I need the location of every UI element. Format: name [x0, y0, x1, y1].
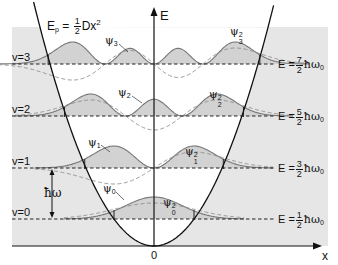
energy-fraction: 72: [296, 56, 303, 75]
formula-fraction: 12: [74, 17, 81, 36]
unit: ħω: [304, 58, 320, 71]
idx: 0: [172, 209, 176, 216]
energy-label-v3: E =72ħω0: [278, 56, 324, 75]
formula-dx: Dx: [82, 19, 97, 33]
psi-squared-label-1: ψ21: [185, 146, 198, 165]
level-label-v3: v=3: [12, 52, 30, 63]
psi-label-3: ψ3: [105, 35, 118, 47]
psi-glyph: ψ: [118, 86, 127, 99]
psi-label-2: ψ2: [118, 87, 131, 99]
e-axis-label: E: [160, 9, 169, 22]
psi-glyph: ψ: [185, 145, 194, 158]
psi-squared-label-0: ψ20: [163, 197, 176, 216]
energy-label-v0: E =12ħω0: [278, 211, 324, 230]
exp: 2: [239, 31, 243, 38]
psi-index: 2: [127, 92, 131, 99]
e-prefix: E =: [278, 213, 295, 225]
exp: 2: [172, 202, 176, 209]
idx: 1: [194, 158, 198, 165]
psi-glyph: ψ: [88, 136, 97, 149]
formula-e: E: [47, 19, 55, 33]
e-prefix: E =: [278, 162, 295, 174]
psi-glyph: ψ: [105, 34, 114, 47]
den: 2: [297, 221, 302, 230]
unit-sub: 0: [320, 116, 324, 123]
unit: ħω: [304, 213, 320, 226]
formula-equals: =: [62, 19, 69, 33]
exp: 2: [194, 151, 198, 158]
sup-sub-stack: 23: [239, 31, 243, 45]
unit: ħω: [304, 162, 320, 175]
origin-label: 0: [151, 250, 157, 261]
den: 2: [297, 170, 302, 179]
psi-glyph: ψ: [103, 182, 112, 195]
hw-text: ħω: [44, 186, 62, 200]
psi-label-0: ψ0: [103, 183, 116, 195]
exp: 2: [218, 94, 222, 101]
formula-exp: 2: [96, 18, 100, 27]
energy-label-v1: E =32ħω0: [278, 160, 324, 179]
psi-squared-label-2: ψ22: [209, 89, 222, 108]
unit-sub: 0: [320, 168, 324, 175]
frac-den: 2: [75, 27, 80, 36]
psi-index: 1: [97, 142, 101, 149]
energy-label-v2: E =52ħω0: [278, 108, 324, 127]
e-prefix: E =: [278, 58, 295, 70]
level-label-v1: v=1: [12, 156, 30, 167]
psi-squared-label-3: ψ23: [230, 26, 243, 45]
psi-index: 3: [114, 40, 118, 47]
sup-sub-stack: 21: [194, 151, 198, 165]
sup-sub-stack: 20: [172, 202, 176, 216]
psi-label-1: ψ1: [88, 137, 101, 149]
formula-sub-p: p: [55, 26, 59, 33]
level-label-v2: v=2: [12, 104, 30, 115]
energy-fraction: 32: [296, 160, 303, 179]
unit-sub: 0: [320, 64, 324, 71]
unit-sub: 0: [320, 219, 324, 226]
x-axis-label: x: [322, 250, 328, 262]
energy-fraction: 12: [296, 211, 303, 230]
unit: ħω: [304, 110, 320, 123]
psi-glyph: ψ: [163, 196, 172, 209]
e-axis-arrow-icon: [151, 7, 158, 16]
potential-formula: Ep = 12Dx2: [47, 17, 101, 36]
idx: 3: [239, 38, 243, 45]
psi-index: 0: [112, 188, 116, 195]
den: 2: [297, 66, 302, 75]
idx: 2: [218, 101, 222, 108]
energy-fraction: 52: [296, 108, 303, 127]
psi-glyph: ψ: [209, 88, 218, 101]
e-prefix: E =: [278, 110, 295, 122]
hw-spacing-label: ħω: [44, 187, 62, 199]
psi-glyph: ψ: [230, 25, 239, 38]
den: 2: [297, 118, 302, 127]
sup-sub-stack: 22: [218, 94, 222, 108]
level-label-v0: v=0: [12, 207, 30, 218]
